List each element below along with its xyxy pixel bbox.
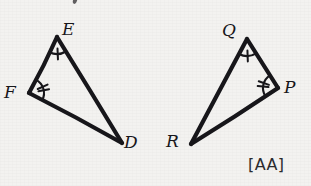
vertex-label-r: R <box>166 133 179 150</box>
vertex-label-d: D <box>124 134 138 151</box>
postulate-label: [AA] <box>248 157 284 173</box>
vertex-label-f: F <box>4 84 16 101</box>
angle-tick-f-2 <box>38 89 49 91</box>
vertex-label-e: E <box>62 21 74 38</box>
diagram-canvas: F E D Q P R [AA] <box>0 0 311 186</box>
triangle-side-QP <box>247 39 278 88</box>
angle-tick-p-1 <box>258 86 269 87</box>
vertex-label-p: P <box>284 79 295 96</box>
triangle-side-FE <box>29 37 57 93</box>
vertex-label-q: Q <box>222 22 236 39</box>
triangle-pqr <box>191 39 278 144</box>
triangle-def <box>29 37 122 143</box>
